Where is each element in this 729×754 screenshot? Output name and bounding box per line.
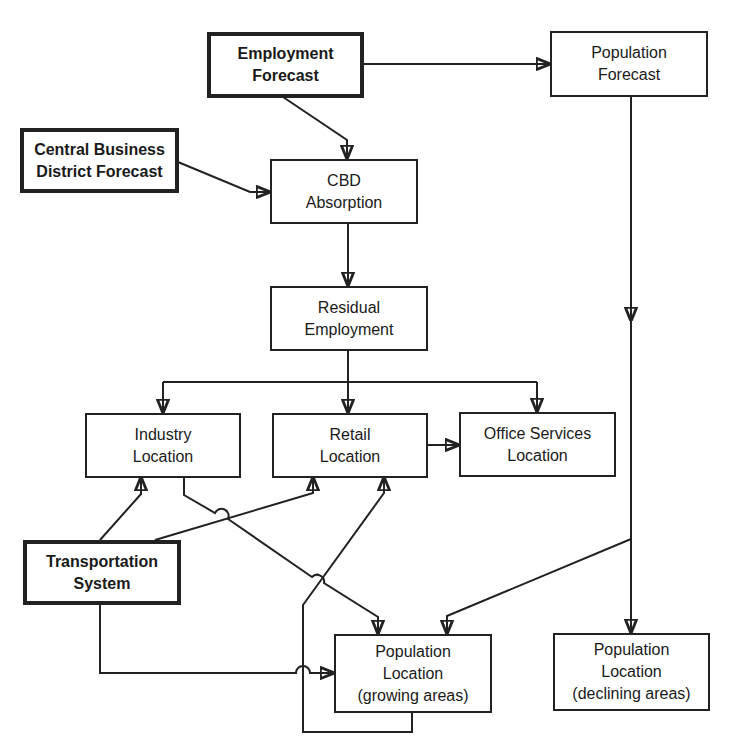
edge-employment-to-cbd-absorption [283, 97, 347, 158]
node-cbd-forecast: Central Business District Forecast [20, 128, 179, 193]
node-label: Population [591, 42, 667, 64]
node-office-services-location: Office Services Location [459, 412, 616, 477]
node-label: Location [133, 446, 194, 468]
node-transportation-system: Transportation System [23, 540, 181, 605]
node-label: Employment [305, 319, 394, 341]
node-label: Location [507, 445, 568, 467]
node-label: Residual [318, 297, 380, 319]
node-label: System [74, 573, 131, 595]
node-population-location-growing: Population Location (growing areas) [334, 634, 492, 713]
node-cbd-absorption: CBD Absorption [270, 159, 418, 224]
node-label: Population [375, 641, 451, 663]
node-label: Absorption [306, 192, 383, 214]
node-label: (declining areas) [572, 683, 690, 705]
node-label: Forecast [598, 64, 660, 86]
node-label: District Forecast [36, 161, 162, 183]
flowchart-diagram: Employment Forecast Population Forecast … [0, 0, 729, 754]
node-label: Employment [237, 43, 333, 65]
node-retail-location: Retail Location [272, 413, 428, 478]
node-population-forecast: Population Forecast [550, 31, 708, 97]
node-industry-location: Industry Location [85, 413, 241, 478]
node-label: Transportation [46, 551, 158, 573]
node-label: Retail [330, 424, 371, 446]
edge-transport-to-pop-growing [100, 604, 333, 673]
node-label: Industry [135, 424, 192, 446]
edge-cbd-forecast-to-cbd-absorption [178, 162, 269, 192]
edge-industry-to-pop-growing [184, 477, 378, 633]
edge-transport-to-retail [155, 478, 313, 540]
node-employment-forecast: Employment Forecast [207, 32, 364, 98]
node-label: Forecast [252, 65, 319, 87]
node-label: Location [320, 446, 381, 468]
node-population-location-declining: Population Location (declining areas) [553, 633, 710, 711]
node-label: (growing areas) [357, 685, 468, 707]
node-label: Location [383, 663, 444, 685]
node-label: Central Business [34, 139, 165, 161]
node-label: Population [594, 639, 670, 661]
node-label: Location [601, 661, 662, 683]
node-label: Office Services [484, 423, 591, 445]
node-label: CBD [327, 170, 361, 192]
edge-transport-to-industry [100, 478, 141, 540]
node-residual-employment: Residual Employment [270, 286, 428, 351]
edge-pop-forecast-to-pop-growing [447, 539, 631, 633]
